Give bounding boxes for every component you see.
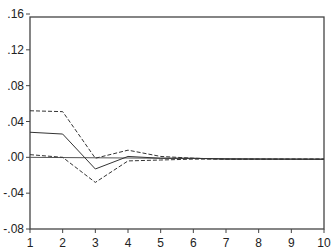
y-tick-label: -.08 xyxy=(3,222,24,236)
y-tick-label: .04 xyxy=(7,115,24,129)
x-axis: 12345678910 xyxy=(27,229,331,250)
x-tick-label: 2 xyxy=(59,236,66,250)
x-tick-label: 1 xyxy=(27,236,34,250)
x-tick-label: 5 xyxy=(157,236,164,250)
plot-border xyxy=(30,17,324,229)
series-lines xyxy=(30,111,324,183)
x-tick-label: 4 xyxy=(125,236,132,250)
x-tick-label: 8 xyxy=(255,236,262,250)
y-tick-label: .00 xyxy=(7,150,24,164)
x-tick-label: 10 xyxy=(317,236,331,250)
x-tick-label: 7 xyxy=(223,236,230,250)
y-tick-label: -.04 xyxy=(3,186,24,200)
series-response xyxy=(30,132,324,169)
y-tick-label: .08 xyxy=(7,79,24,93)
plot-frame xyxy=(30,17,324,229)
x-tick-label: 9 xyxy=(288,236,295,250)
x-tick-label: 6 xyxy=(190,236,197,250)
y-tick-label: .12 xyxy=(7,43,24,57)
impulse-response-chart: .16.12.08.04.00-.04-.08 12345678910 xyxy=(0,0,331,251)
y-tick-label: .16 xyxy=(7,7,24,21)
y-axis: .16.12.08.04.00-.04-.08 xyxy=(3,7,30,236)
series-upper-band xyxy=(30,111,324,159)
x-tick-label: 3 xyxy=(92,236,99,250)
